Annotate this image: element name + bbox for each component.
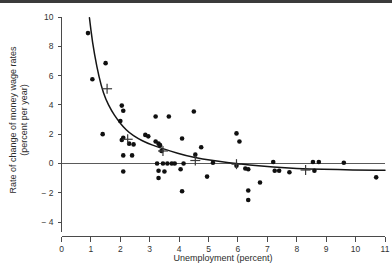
x-tick-label: 2 xyxy=(118,244,123,254)
data-point xyxy=(312,168,317,173)
data-point xyxy=(272,168,277,173)
data-point xyxy=(234,131,239,136)
data-point xyxy=(374,175,379,180)
data-point xyxy=(156,168,161,173)
data-point xyxy=(155,161,160,166)
x-tick-label: 11 xyxy=(381,244,390,254)
data-point xyxy=(180,136,185,141)
data-point xyxy=(258,180,263,185)
data-point xyxy=(146,134,151,139)
data-point xyxy=(121,153,126,158)
group-mean-marker xyxy=(301,165,311,175)
data-point xyxy=(237,139,242,144)
y-axis-title-line-1: Rate of change of money wage rates xyxy=(8,46,18,194)
data-point xyxy=(121,169,126,174)
y-tick-label: 0 xyxy=(49,158,54,168)
y-tick-label: 4 xyxy=(49,100,54,110)
data-point xyxy=(167,114,172,119)
y-tick-label: 8 xyxy=(49,41,54,51)
fitted-phillips-curve xyxy=(89,18,385,171)
phillips-curve-figure: − 4− 20246810 01234567891011 Unemploymen… xyxy=(0,0,392,270)
group-mean-marker xyxy=(231,159,241,169)
data-point xyxy=(90,77,95,82)
x-tick-label: 0 xyxy=(59,244,64,254)
data-point xyxy=(103,61,108,66)
x-axis-title: Unemployment (percent) xyxy=(173,253,272,263)
y-tick-label: − 2 xyxy=(41,188,53,198)
y-tick-label: 6 xyxy=(49,71,54,81)
data-point xyxy=(311,160,316,165)
data-point xyxy=(162,169,167,174)
data-point xyxy=(211,160,216,165)
x-tick-label: 8 xyxy=(294,244,299,254)
data-point xyxy=(121,108,126,113)
y-tick-label: 2 xyxy=(49,129,54,139)
data-point xyxy=(199,145,204,150)
x-tick-label: 3 xyxy=(147,244,152,254)
x-tick-label: 1 xyxy=(89,244,94,254)
data-point xyxy=(119,138,124,143)
data-point xyxy=(192,109,197,114)
data-point xyxy=(246,198,251,203)
scatter-plot-canvas: − 4− 20246810 01234567891011 Unemploymen… xyxy=(0,0,392,270)
data-point xyxy=(118,119,123,124)
data-point xyxy=(271,160,276,165)
data-point xyxy=(287,170,292,175)
y-tick-label: − 4 xyxy=(41,217,53,227)
data-point xyxy=(86,31,91,36)
y-axis-ticks: − 4− 20246810 xyxy=(41,12,61,227)
data-point xyxy=(161,161,166,166)
x-axis-ticks: 01234567891011 xyxy=(59,237,390,255)
data-point xyxy=(153,114,158,119)
data-point xyxy=(205,174,210,179)
data-point xyxy=(172,161,177,166)
data-point xyxy=(178,167,183,172)
data-point xyxy=(277,168,282,173)
data-point xyxy=(246,167,251,172)
data-point xyxy=(130,153,135,158)
data-point xyxy=(158,143,163,148)
y-axis-title-line-2: (percent per year) xyxy=(19,84,29,156)
data-point xyxy=(165,161,170,166)
data-point xyxy=(119,103,124,108)
data-point-group xyxy=(86,31,379,203)
axes-group xyxy=(62,17,386,237)
group-mean-marker-group xyxy=(102,84,311,175)
x-tick-label: 10 xyxy=(351,244,361,254)
data-point xyxy=(342,160,347,165)
x-tick-label: 9 xyxy=(324,244,329,254)
data-point xyxy=(100,132,105,137)
data-point xyxy=(246,188,251,193)
data-point xyxy=(181,161,186,166)
y-tick-label: 10 xyxy=(44,12,54,22)
data-point xyxy=(317,160,322,165)
data-point xyxy=(131,142,136,147)
data-point xyxy=(180,189,185,194)
data-point xyxy=(156,176,161,181)
